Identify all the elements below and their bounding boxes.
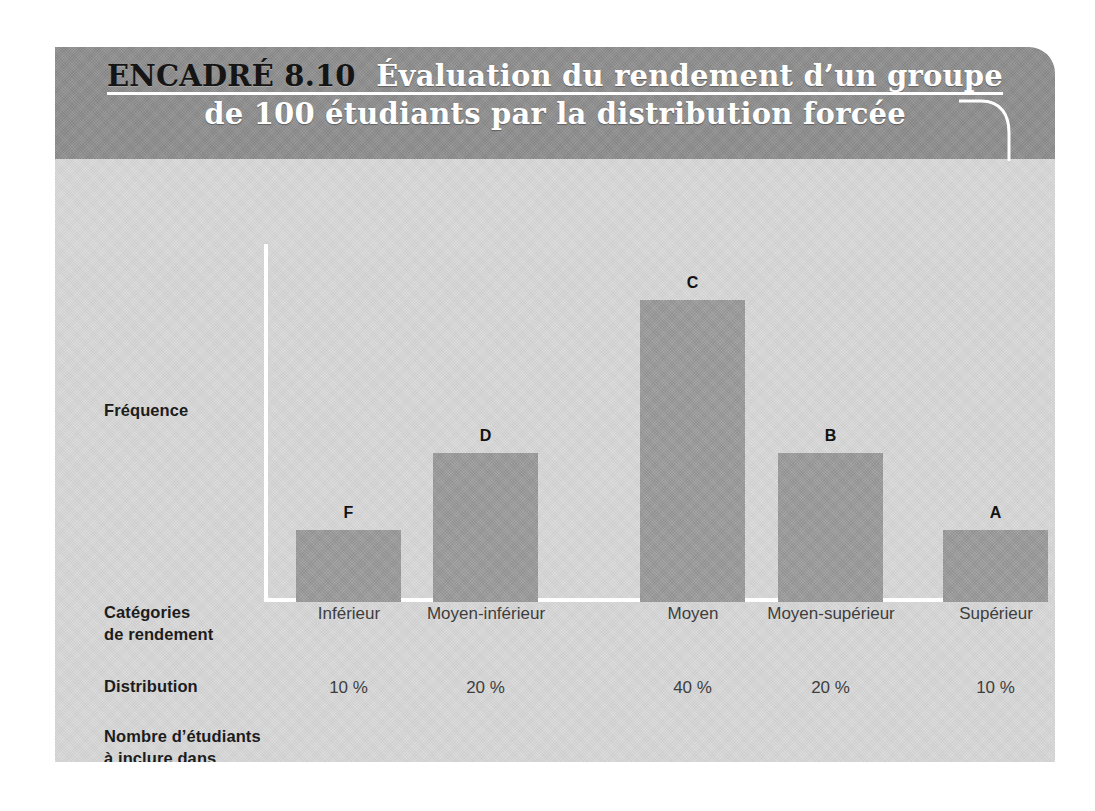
figure-title-line-1: ENCADRÉ 8.10 Évaluation du rendement d’u…	[107, 61, 1003, 95]
table-row-categories: Catégories de rendement Inférieur Moyen-…	[55, 602, 1055, 660]
category-cell-moyen-superieur: Moyen-supérieur	[746, 604, 916, 624]
figure-title-line-2: de 100 étudiants par la distribution for…	[55, 99, 1055, 130]
table-row-student-count: Nombre d’étudiants à inclure dans chaque…	[55, 722, 1055, 762]
figure-panel: ENCADRÉ 8.10 Évaluation du rendement d’u…	[55, 47, 1055, 762]
y-axis-label: Fréquence	[104, 401, 188, 420]
bar-grade-label-a: A	[943, 504, 1048, 522]
distribution-cell-moyen: 40 %	[640, 678, 745, 698]
bar-grade-label-b: B	[778, 427, 883, 445]
row-header-count-line-2: à inclure dans	[104, 748, 261, 762]
figure-title-main: Évaluation du rendement d’un groupe	[376, 59, 1003, 93]
row-header-student-count: Nombre d’étudiants à inclure dans chaque…	[104, 726, 261, 762]
row-header-categories-line-1: Catégories	[104, 602, 213, 624]
distribution-cell-moyen-inferieur: 20 %	[433, 678, 538, 698]
distribution-cell-moyen-superieur: 20 %	[778, 678, 883, 698]
distribution-cell-superieur: 10 %	[943, 678, 1048, 698]
row-header-categories-line-2: de rendement	[104, 624, 213, 646]
plot-area: F D C B A	[268, 179, 1055, 602]
table-row-distribution: Distribution 10 % 20 % 40 % 20 % 10 %	[55, 660, 1055, 722]
bar-superieur	[943, 530, 1048, 602]
row-header-count-line-1: Nombre d’étudiants	[104, 726, 261, 748]
title-underline-rule	[107, 92, 1003, 95]
bar-moyen-superieur	[778, 453, 883, 602]
figure-title-block: ENCADRÉ 8.10 Évaluation du rendement d’u…	[55, 61, 1055, 131]
distribution-cell-inferieur: 10 %	[296, 678, 401, 698]
row-cells-categories: Inférieur Moyen-inférieur Moyen Moyen-su…	[268, 604, 1055, 662]
category-cell-moyen-inferieur: Moyen-inférieur	[401, 604, 571, 624]
bar-moyen-inferieur	[433, 453, 538, 602]
bar-inferieur	[296, 530, 401, 602]
category-cell-superieur: Supérieur	[911, 604, 1055, 624]
bar-grade-label-c: C	[640, 274, 745, 292]
bar-grade-label-d: D	[433, 427, 538, 445]
row-header-categories: Catégories de rendement	[104, 602, 213, 646]
bar-grade-label-f: F	[296, 504, 401, 522]
row-header-distribution: Distribution	[104, 676, 198, 698]
data-table: Catégories de rendement Inférieur Moyen-…	[55, 602, 1055, 762]
bar-moyen	[640, 300, 745, 602]
box-number-label: ENCADRÉ 8.10	[107, 59, 356, 93]
